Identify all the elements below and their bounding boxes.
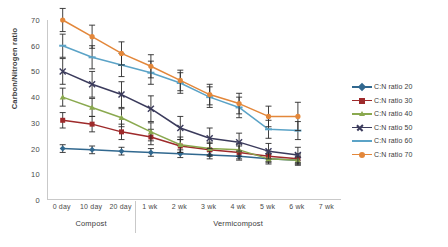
- legend-item-c-n-ratio-40[interactable]: C:N ratio 40: [352, 107, 446, 121]
- legend-swatch-icon: [352, 109, 372, 118]
- legend-swatch-icon: [352, 82, 372, 91]
- legend-swatch-icon: [352, 136, 372, 145]
- y-axis-tick-50: 50: [31, 67, 40, 76]
- y-axis-tick-0: 0: [36, 196, 40, 205]
- legend-swatch-icon: [352, 123, 372, 132]
- x-axis-tick-0-day: 0 day: [53, 203, 71, 210]
- y-axis-tick-labels: 010203040506070: [0, 20, 45, 200]
- legend-item-c-n-ratio-20[interactable]: C:N ratio 20: [352, 80, 446, 94]
- y-axis-tick-30: 30: [31, 118, 40, 127]
- plot-inner: [48, 20, 341, 199]
- chart-legend: C:N ratio 20C:N ratio 30C:N ratio 40C:N …: [352, 80, 446, 161]
- legend-label: C:N ratio 70: [374, 151, 413, 158]
- legend-item-c-n-ratio-60[interactable]: C:N ratio 60: [352, 134, 446, 148]
- legend-item-c-n-ratio-30[interactable]: C:N ratio 30: [352, 94, 446, 108]
- x-axis-tick-labels: 0 day10 day20 day1 wk2 wk3 wk4 wk5 wk6 w…: [47, 201, 341, 216]
- x-group-label-compost: Compost: [75, 219, 106, 228]
- x-axis-tick-1-wk: 1 wk: [142, 203, 157, 210]
- plot-area: [47, 20, 341, 200]
- y-axis-tick-60: 60: [31, 41, 40, 50]
- x-axis-tick-2-wk: 2 wk: [172, 203, 187, 210]
- legend-swatch-icon: [352, 150, 372, 159]
- legend-item-c-n-ratio-50[interactable]: C:N ratio 50: [352, 121, 446, 135]
- legend-label: C:N ratio 30: [374, 97, 413, 104]
- series-c-n-ratio-70: [60, 8, 301, 130]
- x-axis-tick-6-wk: 6 wk: [289, 203, 304, 210]
- x-axis-tick-4-wk: 4 wk: [230, 203, 245, 210]
- legend-item-c-n-ratio-70[interactable]: C:N ratio 70: [352, 148, 446, 162]
- legend-label: C:N ratio 20: [374, 83, 413, 90]
- x-axis-tick-20-day: 20 day: [109, 203, 131, 210]
- x-group-label-vermicompost: Vermicompost: [213, 219, 263, 228]
- x-axis-tick-3-wk: 3 wk: [201, 203, 216, 210]
- legend-swatch-icon: [352, 96, 372, 105]
- x-axis-tick-7-wk: 7 wk: [319, 203, 334, 210]
- x-axis-group-labels: CompostVermicompost: [47, 216, 341, 236]
- y-axis-tick-70: 70: [31, 16, 40, 25]
- x-axis-tick-10-day: 10 day: [80, 203, 102, 210]
- y-axis-tick-10: 10: [31, 170, 40, 179]
- chart-container: Carbon/Nitrogen ratio 010203040506070 0 …: [0, 0, 448, 247]
- y-axis-tick-20: 20: [31, 144, 40, 153]
- x-axis-tick-5-wk: 5 wk: [260, 203, 275, 210]
- legend-label: C:N ratio 40: [374, 110, 413, 117]
- x-axis-group-separator: [135, 201, 136, 216]
- x-group-separator: [135, 216, 136, 233]
- legend-label: C:N ratio 60: [374, 137, 413, 144]
- legend-label: C:N ratio 50: [374, 124, 413, 131]
- y-axis-tick-40: 40: [31, 93, 40, 102]
- series-layer: [48, 20, 342, 200]
